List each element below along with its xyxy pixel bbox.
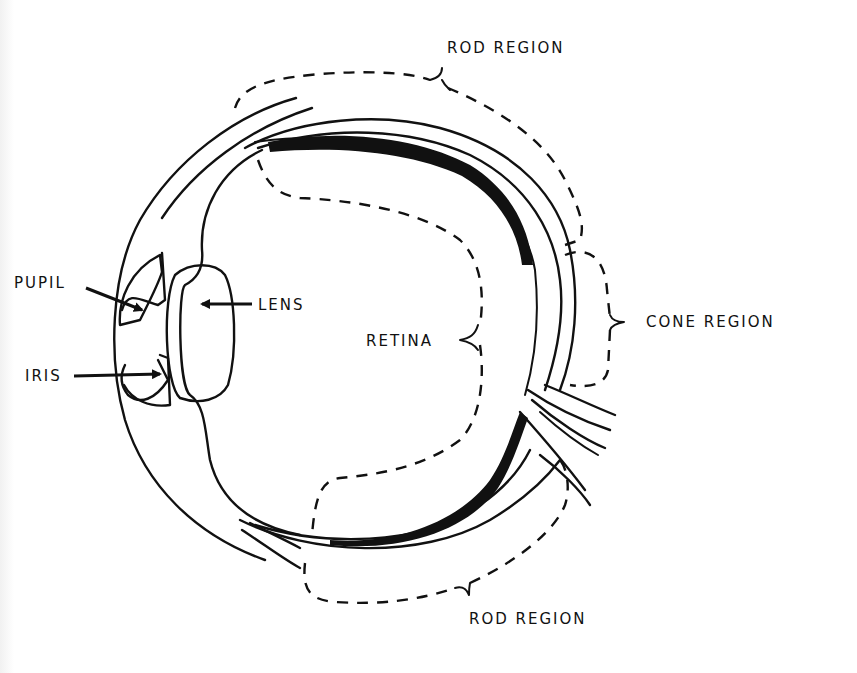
label-rod-region-bottom: ROD REGION bbox=[469, 612, 587, 627]
choroid-lower-band bbox=[330, 412, 528, 546]
lens bbox=[167, 265, 234, 401]
retina-bracket-lower bbox=[312, 345, 482, 535]
cone-region-bracket bbox=[565, 252, 610, 386]
rod-region-bracket-bottom-right bbox=[470, 460, 568, 583]
rod-top-brace-tip bbox=[430, 68, 450, 90]
sclera-outline bbox=[114, 98, 575, 568]
label-pupil: PUPIL bbox=[14, 276, 66, 291]
label-retina: RETINA bbox=[366, 334, 433, 349]
cone-brace-tip bbox=[610, 315, 624, 330]
label-lens: LENS bbox=[258, 298, 305, 313]
iris bbox=[120, 253, 170, 406]
label-rod-region-top: ROD REGION bbox=[447, 41, 565, 56]
rod-bottom-brace-tip bbox=[455, 583, 470, 595]
retina-brace-tip bbox=[460, 325, 478, 350]
vitreous-boundary bbox=[180, 150, 300, 535]
iris-arrow bbox=[74, 374, 160, 376]
label-cone-region: CONE REGION bbox=[646, 315, 775, 330]
choroid-upper-band bbox=[268, 136, 533, 265]
rod-region-bracket-top bbox=[235, 72, 430, 108]
label-iris: IRIS bbox=[25, 369, 62, 384]
rod-region-bracket-bottom bbox=[304, 563, 455, 603]
